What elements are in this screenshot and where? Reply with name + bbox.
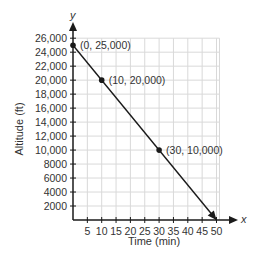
data-points: (0, 25,000)(10, 20,000)(30, 10,000): [70, 39, 223, 156]
y-tick-label: 10,000: [35, 144, 67, 156]
data-point: [156, 147, 162, 153]
x-tick-label: 50: [211, 225, 223, 237]
y-tick-label: 24,000: [35, 46, 67, 58]
y-tick-label: 6000: [44, 172, 68, 184]
y-tick-label: 12,000: [35, 130, 67, 142]
y-tick-label: 20,000: [35, 74, 67, 86]
y-tick-label: 2000: [44, 200, 68, 212]
x-tick-label: 5: [84, 225, 90, 237]
data-point: [99, 77, 105, 83]
y-tick-label: 14,000: [35, 116, 67, 128]
data-point-label: (30, 10,000): [166, 144, 223, 156]
x-axis-letter: x: [240, 213, 247, 225]
y-tick-label: 18,000: [35, 88, 67, 100]
y-tick-label: 26,000: [35, 32, 67, 44]
y-tick-label: 16,000: [35, 102, 67, 114]
y-axis-letter: y: [69, 9, 77, 21]
y-axis-arrow-icon: [69, 22, 77, 31]
chart-canvas: 5101520253035404550200040006000800010,00…: [0, 0, 262, 266]
y-tick-label: 22,000: [35, 60, 67, 72]
x-tick-label: 45: [196, 225, 208, 237]
data-point: [70, 42, 76, 48]
grid: [73, 38, 220, 220]
data-point-label: (10, 20,000): [109, 74, 166, 86]
y-tick-label: 4000: [44, 186, 68, 198]
data-point-label: (0, 25,000): [80, 39, 131, 51]
altitude-time-chart: 5101520253035404550200040006000800010,00…: [0, 0, 262, 266]
x-axis-arrow-icon: [229, 216, 238, 224]
y-axis-label: Altitude (ft): [13, 102, 25, 155]
x-tick-label: 10: [96, 225, 108, 237]
y-tick-label: 8000: [44, 158, 68, 170]
x-axis-label: Time (min): [128, 235, 180, 247]
x-tick-label: 40: [182, 225, 194, 237]
x-tick-label: 15: [110, 225, 122, 237]
